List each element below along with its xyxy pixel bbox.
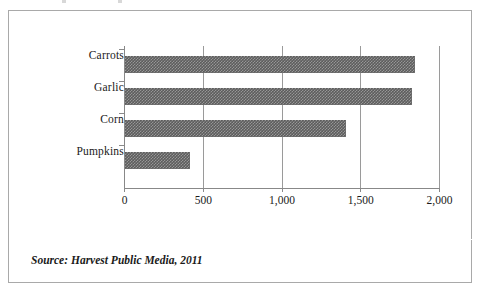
category-label-corn: Corn <box>100 113 124 125</box>
source-note: Source: Harvest Public Media, 2011 <box>31 254 203 266</box>
bar-pumpkins[interactable] <box>125 152 190 169</box>
x-axis-tick-1000 <box>282 188 283 192</box>
category-label-garlic: Garlic <box>94 81 124 93</box>
x-axis-tick-0 <box>124 188 125 192</box>
x-tick-label-1500: 1,500 <box>348 194 374 206</box>
gridline-2000 <box>439 46 440 189</box>
bar-garlic[interactable] <box>125 88 412 105</box>
bar-carrots[interactable] <box>125 56 415 73</box>
x-tick-label-0: 0 <box>122 194 128 206</box>
category-label-pumpkins: Pumpkins <box>76 145 124 157</box>
bar-corn[interactable] <box>125 120 346 137</box>
category-label-carrots: Carrots <box>89 49 124 61</box>
cropped-line-artifact <box>0 0 481 8</box>
figure-frame: Carrots Garlic Corn Pumpkins 0 500 1,000… <box>8 10 472 283</box>
x-tick-label-500: 500 <box>195 194 212 206</box>
x-axis-tick-2000 <box>439 188 440 192</box>
x-tick-label-2000: 2,000 <box>427 194 453 206</box>
x-axis-tick-1500 <box>360 188 361 192</box>
x-axis-tick-500 <box>203 188 204 192</box>
source-divider <box>10 239 472 240</box>
bar-chart-plot: Carrots Garlic Corn Pumpkins 0 500 1,000… <box>9 11 473 284</box>
x-tick-label-1000: 1,000 <box>269 194 295 206</box>
